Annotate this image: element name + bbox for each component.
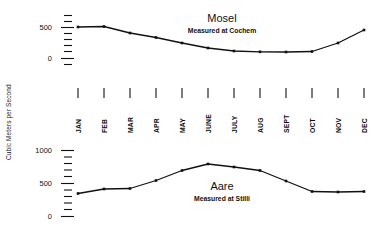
month-label-sept: SEPT — [283, 114, 290, 133]
month-label-feb: FEB — [101, 119, 108, 133]
y-axis-title: Cubic Meters per Second — [5, 84, 13, 160]
aare-ytick-1000: 1000 — [35, 146, 52, 155]
month-label-june: JUNE — [205, 114, 212, 133]
aare-ytick-0: 0 — [48, 212, 52, 221]
month-label-may: MAY — [179, 118, 186, 133]
month-label-jan: JAN — [75, 119, 82, 133]
month-label-nov: NOV — [335, 117, 342, 133]
month-label-july: JULY — [231, 115, 238, 133]
month-label-oct: OCT — [309, 117, 316, 133]
mosel-title: Mosel — [207, 12, 236, 24]
chart-mosel: 500 0 Mosel Measured at Cochem — [39, 12, 365, 65]
mosel-y-axis-ticks — [61, 16, 74, 65]
mosel-ytick-500: 500 — [39, 23, 52, 32]
mosel-ytick-0: 0 — [48, 54, 52, 63]
month-label-apr: APR — [153, 118, 160, 133]
mosel-subtitle: Measured at Cochem — [188, 27, 256, 34]
aare-ytick-500: 500 — [39, 179, 52, 188]
chart-aare: 1000 500 0 Aare Measured at Stilli — [35, 146, 365, 221]
river-discharge-figure: Cubic Meters per Second 500 0 Mosel Meas… — [0, 0, 378, 235]
aare-y-axis-ticks — [61, 151, 74, 217]
month-axis: JAN FEB MAR APR MAY JUNE JULY AUG SEPT O… — [75, 88, 368, 133]
month-label-aug: AUG — [257, 117, 264, 133]
aare-title: Aare — [210, 180, 233, 192]
month-label-mar: MAR — [127, 117, 134, 133]
aare-subtitle: Measured at Stilli — [194, 195, 250, 202]
month-label-dec: DEC — [361, 118, 368, 133]
